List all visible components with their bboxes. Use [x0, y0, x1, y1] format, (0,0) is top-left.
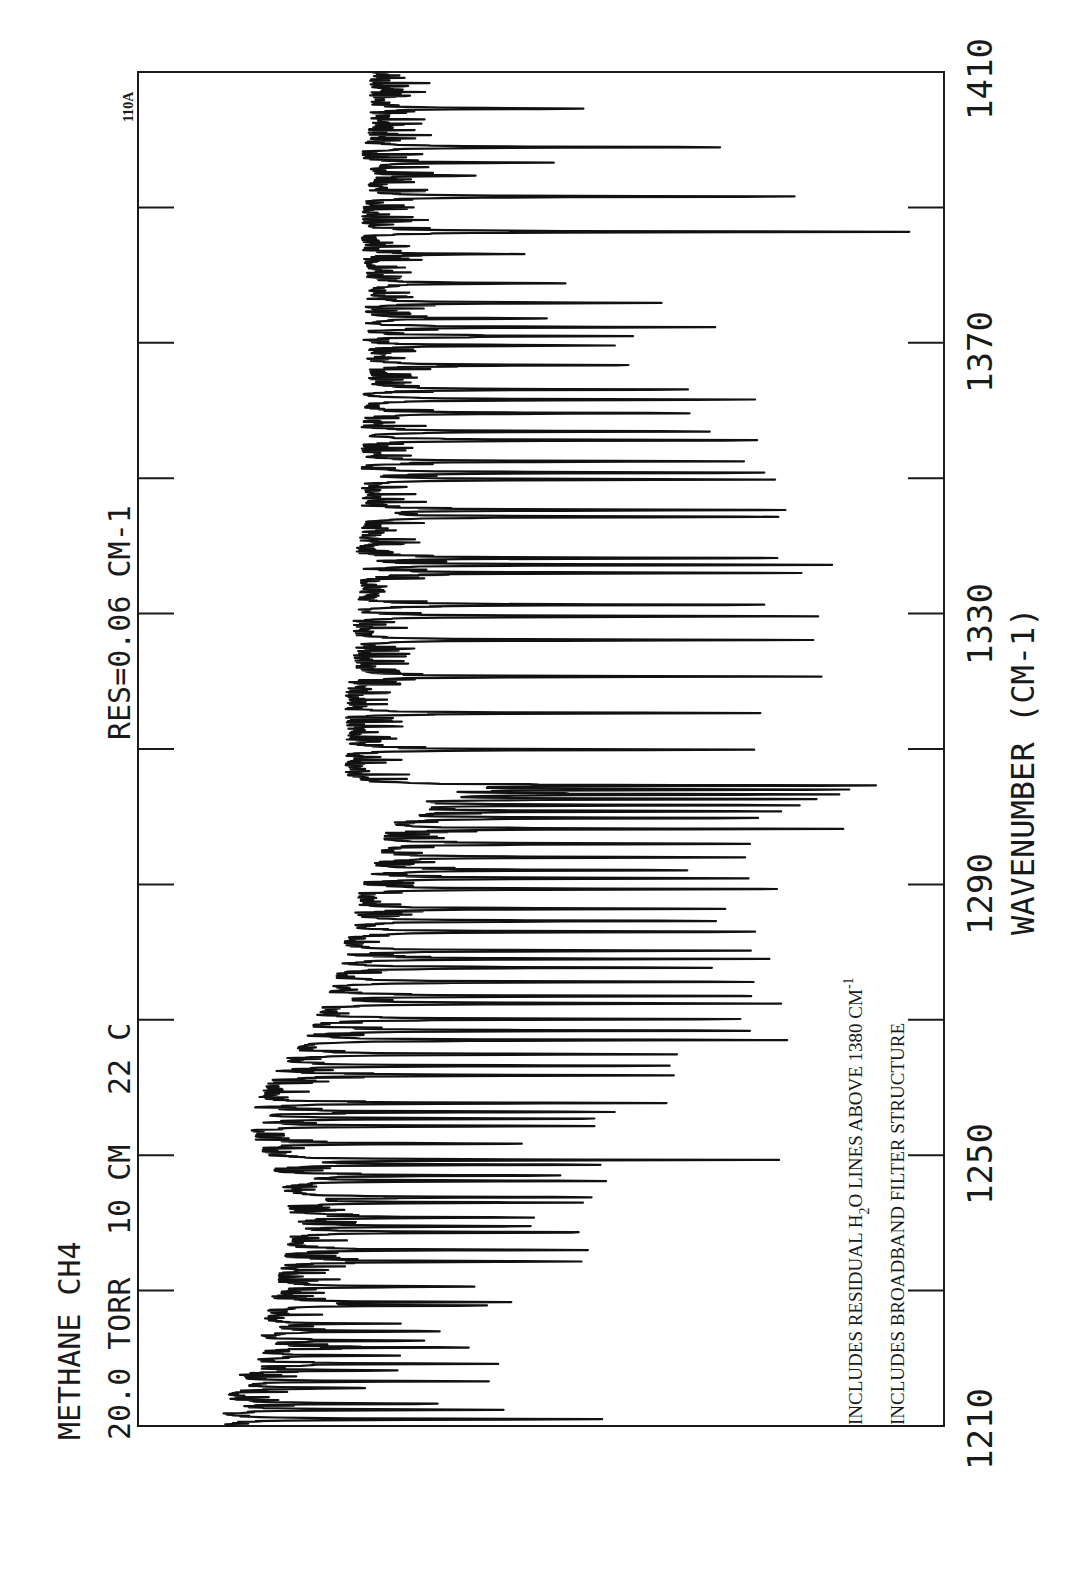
note2-text: INCLUDES BROADBAND FILTER STRUCTURE [887, 1023, 908, 1425]
pressure-label: 20.0 TORR [102, 1277, 137, 1440]
tick-label-1210: 1210 [960, 1388, 1000, 1470]
tick-label-1330: 1330 [960, 583, 1000, 665]
pathlength-label: 10 CM [102, 1145, 137, 1235]
subtitle-block: 20.0 TORR 10 CM 22 C [102, 1023, 137, 1440]
spectrum-trace [224, 72, 910, 1426]
spectrum-chart: METHANE CH4 20.0 TORR 10 CM 22 C RES=0.0… [0, 0, 1091, 1579]
resolution-label: RES=0.06 CM-1 [102, 505, 137, 740]
axis-tick-labels: 1210 1250 1290 1330 1370 1410 [960, 38, 1000, 1470]
note1-text-mid: O LINES ABOVE 1380 CM [845, 989, 866, 1208]
note-h2o: INCLUDES RESIDUAL H2O LINES ABOVE 1380 C… [841, 977, 872, 1425]
plot-id-block: 110A [121, 91, 136, 122]
note1-subscript: 2 [857, 1208, 872, 1215]
svg-text:INCLUDES RESIDUAL H2O LINES AB: INCLUDES RESIDUAL H2O LINES ABOVE 1380 C… [841, 977, 872, 1425]
note1-text: INCLUDES RESIDUAL H [845, 1214, 866, 1425]
tick-label-1290: 1290 [960, 853, 1000, 935]
chart-title: METHANE CH4 [52, 1241, 87, 1440]
resolution-block: RES=0.06 CM-1 [102, 505, 137, 740]
tick-label-1250: 1250 [960, 1123, 1000, 1205]
xlabel-block: WAVENUMBER (CM-1) [1004, 607, 1042, 935]
title-block: METHANE CH4 [52, 1241, 87, 1440]
x-axis-title: WAVENUMBER (CM-1) [1004, 607, 1042, 935]
tick-label-1410: 1410 [960, 38, 1000, 120]
note-filter: INCLUDES BROADBAND FILTER STRUCTURE [887, 1023, 908, 1425]
temperature-label: 22 C [102, 1023, 137, 1095]
plot-id-label: 110A [121, 91, 136, 122]
note1-superscript: -1 [841, 977, 856, 989]
tick-label-1370: 1370 [960, 311, 1000, 393]
